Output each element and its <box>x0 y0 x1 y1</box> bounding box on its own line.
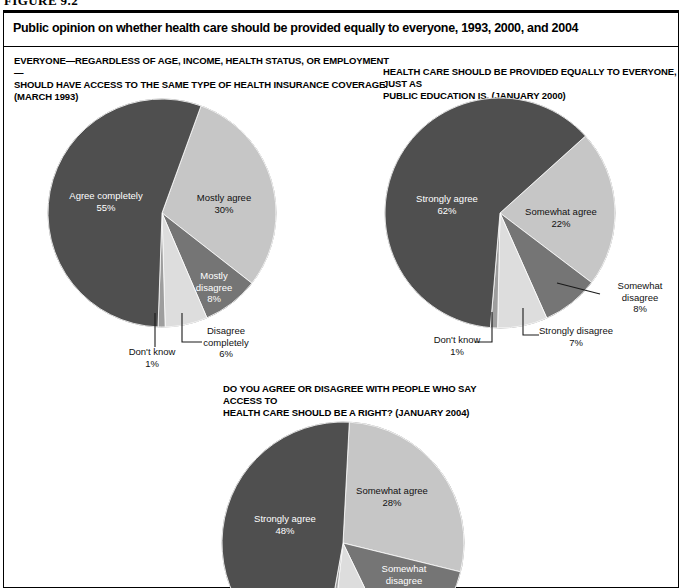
figure-title: Public opinion on whether health care sh… <box>13 21 668 35</box>
pie-chart-0: Mostly agree 30%Mostly disagree 8%Disagr… <box>30 95 330 380</box>
pie-label-mostly-agree: Mostly agree 30% <box>197 192 251 215</box>
pie-label-somewhat-agree: Somewhat agree 28% <box>356 485 428 508</box>
pie-chart-2: Somewhat agree 28%Somewhat disagreeStron… <box>215 420 485 582</box>
pie-label-don-t-know: Don't know 1% <box>434 334 481 357</box>
pie-slice-strongly-agree <box>222 422 349 588</box>
pie-label-disagree-completely: Disagree completely 6% <box>203 325 248 360</box>
pie-label-strongly-agree: Strongly agree 62% <box>416 193 478 216</box>
pie-label-mostly-disagree: Mostly disagree 8% <box>196 270 232 305</box>
figure-number-label: FIGURE 9.2 <box>4 0 78 9</box>
pie-label-strongly-agree: Strongly agree 48% <box>254 513 316 536</box>
pie-chart-1: Somewhat agree 22%Somewhat disagree 8%St… <box>375 96 685 380</box>
pie-label-somewhat-disagree: Somewhat disagree <box>382 563 427 586</box>
pie-label-agree-completely: Agree completely 55% <box>69 190 142 213</box>
pie-label-don-t-know: Don't know 1% <box>129 346 176 369</box>
pie-label-strongly-disagree: Strongly disagree 7% <box>539 325 613 348</box>
pie-label-somewhat-disagree: Somewhat disagree 8% <box>618 280 663 315</box>
title-divider <box>4 46 678 47</box>
pie-chart-2-title: DO YOU AGREE OR DISAGREE WITH PEOPLE WHO… <box>223 383 513 419</box>
pie-svg-0 <box>30 95 330 380</box>
pie-svg-1 <box>375 96 685 380</box>
pie-svg-2 <box>215 420 485 582</box>
pie-label-somewhat-agree: Somewhat agree 22% <box>525 206 597 229</box>
